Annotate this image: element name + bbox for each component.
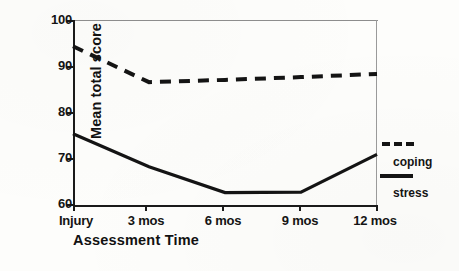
x-tick-12mos (376, 205, 378, 211)
legend-label-stress: stress (393, 186, 428, 200)
series-canvas (73, 21, 377, 205)
series-line-stress (73, 134, 377, 193)
y-tick-label-100: 100 (32, 12, 72, 27)
y-axis-title: Mean total score (88, 0, 104, 166)
x-tick-3mos (145, 205, 147, 211)
x-tick-injury (73, 205, 75, 211)
y-tick-label-70: 70 (32, 150, 72, 165)
y-tick-label-80: 80 (32, 104, 72, 119)
series-line-coping (73, 46, 377, 82)
x-tick-9mos (299, 205, 301, 211)
x-axis-line (73, 205, 378, 207)
x-tick-label-12mos: 12 mos (330, 213, 420, 228)
legend-swatch-dashed-icon (382, 142, 414, 146)
chart-figure: 100 90 80 70 60 Injury 3 mos 6 mos 9 mos… (0, 0, 459, 271)
plot-area: 100 90 80 70 60 Injury 3 mos 6 mos 9 mos… (73, 21, 377, 205)
x-axis-title: Assessment Time (73, 232, 199, 248)
legend-label-coping: coping (393, 155, 432, 169)
y-tick-label-90: 90 (32, 58, 72, 73)
legend-swatch-solid-icon (380, 174, 413, 178)
x-tick-6mos (222, 205, 224, 211)
y-tick-label-60: 60 (32, 196, 72, 211)
